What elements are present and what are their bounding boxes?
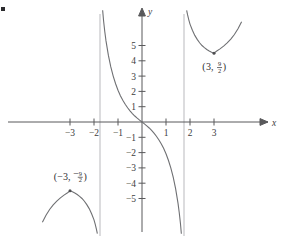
y-tick-2: −3	[126, 163, 146, 173]
x-axis-label: x	[271, 118, 277, 128]
y-tick-label-6: 2	[131, 87, 136, 97]
y-tick-0: −5	[126, 194, 146, 204]
y-tick-label-4: −1	[126, 133, 136, 143]
y-tick-label-8: 4	[131, 56, 136, 66]
y-axis-label: y	[147, 7, 153, 17]
y-tick-4: −1	[126, 133, 146, 143]
y-tick-5: 1	[131, 102, 145, 112]
x-tick-2: −1	[113, 119, 123, 139]
x-tick-5: 3	[212, 119, 217, 139]
max-point-left: (−3,−92)	[54, 168, 87, 192]
x-tick-0: −3	[65, 119, 75, 139]
x-tick-label-3: 1	[164, 128, 169, 138]
x-tick-label-1: −2	[89, 128, 99, 138]
y-tick-7: 3	[131, 72, 145, 82]
curve-left-branch	[42, 191, 97, 234]
min-point-right: (3,92)	[202, 52, 226, 74]
y-tick-label-3: −2	[126, 148, 136, 158]
y-tick-3: −2	[126, 148, 146, 158]
max-point-left-paren-close: )	[84, 171, 87, 183]
max-point-left-x-value: −3,	[57, 171, 70, 182]
min-point-right-paren-close: )	[223, 61, 226, 73]
y-tick-label-2: −3	[126, 163, 136, 173]
x-tick-1: −2	[89, 119, 99, 139]
y-tick-label-9: 5	[131, 41, 136, 51]
x-tick-label-0: −3	[65, 128, 75, 138]
y-tick-label-1: −4	[126, 179, 136, 189]
y-tick-1: −4	[126, 179, 146, 189]
y-tick-6: 2	[131, 87, 145, 97]
x-tick-label-2: −1	[113, 128, 123, 138]
x-tick-4: 2	[188, 119, 193, 139]
graph-figure: −3−2−1123 −5−4−3−2−112345 (−3,−92)(3,92)…	[0, 0, 287, 240]
max-point-left-label: (−3,−92)	[54, 168, 87, 183]
max-point-left-y-denominator: 2	[79, 176, 82, 183]
x-tick-3: 1	[164, 119, 169, 139]
x-tick-label-4: 2	[188, 128, 193, 138]
coordinate-plane: −3−2−1123 −5−4−3−2−112345 (−3,−92)(3,92)…	[0, 0, 287, 240]
min-point-right-y-denominator: 2	[218, 67, 221, 74]
curve-right-branch	[187, 10, 242, 53]
x-tick-label-5: 3	[212, 128, 217, 138]
corner-mark	[1, 7, 5, 11]
y-tick-label-7: 3	[131, 72, 136, 82]
y-tick-8: 4	[131, 56, 145, 66]
x-axis-arrow	[260, 119, 268, 126]
y-tick-label-5: 1	[131, 102, 136, 112]
max-point-left-dot	[69, 189, 72, 192]
min-point-right-x-value: 3,	[206, 61, 214, 72]
min-point-right-dot	[213, 52, 216, 55]
y-tick-9: 5	[131, 41, 145, 51]
y-axis-arrow	[139, 8, 146, 16]
y-tick-label-0: −5	[126, 194, 136, 204]
min-point-right-label: (3,92)	[202, 60, 226, 73]
